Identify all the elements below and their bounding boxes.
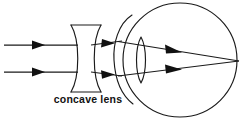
concave-lens-left-surface: [71, 25, 78, 92]
arrowhead-incident-upper: [32, 41, 45, 50]
arrowhead-incident-lower: [32, 68, 45, 77]
optics-diagram: concave lens: [0, 0, 245, 122]
arrowhead-diverged-upper: [101, 39, 115, 48]
concave-lens-right-surface: [94, 25, 101, 92]
arrowhead-internal-lower: [165, 65, 182, 74]
arrowhead-diverged-lower: [101, 70, 115, 79]
concave-lens-caption: concave lens: [0, 93, 176, 106]
crystalline-lens: [137, 37, 146, 83]
arrowhead-internal-upper: [165, 45, 182, 54]
